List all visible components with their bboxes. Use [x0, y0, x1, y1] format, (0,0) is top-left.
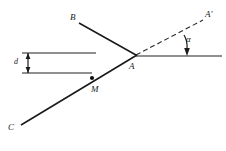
- label-dimension: d: [14, 58, 18, 66]
- ray-a-to-c: [21, 55, 137, 125]
- label-vertex-a: A: [129, 62, 135, 71]
- label-point-m: M: [91, 85, 99, 94]
- angle-alpha-arrowhead: [184, 48, 190, 56]
- dimension-arrow-down: [26, 67, 31, 73]
- label-angle-alpha: α: [186, 35, 191, 44]
- label-point-a-prime: A': [205, 10, 212, 19]
- ray-a-to-b: [79, 23, 136, 55]
- geometry-figure: B A' A M C α d: [0, 0, 226, 151]
- label-point-c: C: [8, 123, 14, 132]
- figure-canvas: [0, 0, 226, 151]
- dimension-arrow-up: [26, 53, 31, 59]
- dashed-ray-a-to-aprime: [136, 20, 203, 55]
- point-m-dot: [90, 76, 94, 80]
- label-point-b: B: [70, 13, 76, 22]
